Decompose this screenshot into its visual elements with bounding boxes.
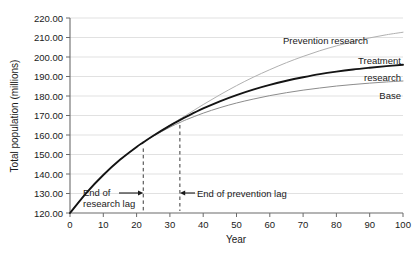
y-tick-150: 150.00 [34, 149, 63, 160]
research-lag-arrow-head [138, 191, 143, 196]
x-tick-50: 50 [231, 219, 242, 230]
series-label-treatment-line1: Treatment [358, 55, 401, 66]
y-axis-title: Total population (millions) [9, 60, 20, 173]
y-tick-190: 190.00 [34, 71, 63, 82]
prevention-lag-arrow-head [180, 191, 185, 196]
y-tick-140: 140.00 [34, 169, 63, 180]
annotation-end-of-research-lag: End of research lag [83, 187, 143, 209]
x-tick-60: 60 [265, 219, 276, 230]
series-label-prevention-research: Prevention research [283, 35, 368, 46]
population-projection-chart: 220.00 210.00 200.00 190.00 180.00 170.0… [0, 0, 418, 254]
y-tick-180: 180.00 [34, 91, 63, 102]
series-label-base: Base [379, 90, 401, 101]
y-tick-220: 220.00 [34, 13, 63, 24]
x-tick-100: 100 [395, 219, 411, 230]
y-tick-labels: 220.00 210.00 200.00 190.00 180.00 170.0… [34, 13, 63, 219]
x-tick-80: 80 [331, 219, 342, 230]
y-tick-120: 120.00 [34, 208, 63, 219]
y-tick-210: 210.00 [34, 32, 63, 43]
x-tick-70: 70 [298, 219, 309, 230]
x-tick-30: 30 [165, 219, 176, 230]
research-lag-label-line2: research lag [83, 198, 135, 209]
x-tick-marks [70, 213, 403, 217]
chart-container: 220.00 210.00 200.00 190.00 180.00 170.0… [0, 0, 418, 254]
data-series-group [70, 32, 403, 213]
series-line-prevention-research [70, 32, 403, 213]
prevention-lag-label: End of prevention lag [197, 188, 287, 199]
annotation-end-of-prevention-lag: End of prevention lag [180, 188, 287, 199]
y-tick-marks [66, 18, 70, 213]
x-tick-0: 0 [67, 219, 72, 230]
x-axis-title: Year [226, 234, 247, 245]
research-lag-label-line1: End of [83, 187, 111, 198]
x-tick-90: 90 [364, 219, 375, 230]
series-label-treatment-line2: research [364, 72, 401, 83]
x-tick-20: 20 [131, 219, 142, 230]
y-tick-200: 200.00 [34, 52, 63, 63]
y-tick-170: 170.00 [34, 110, 63, 121]
y-tick-160: 160.00 [34, 130, 63, 141]
x-tick-40: 40 [198, 219, 209, 230]
y-tick-130: 130.00 [34, 188, 63, 199]
x-tick-10: 10 [98, 219, 109, 230]
series-inline-labels: Prevention research Treatment research B… [283, 35, 401, 101]
x-tick-labels: 0 10 20 30 40 50 60 70 80 90 100 [67, 219, 411, 230]
